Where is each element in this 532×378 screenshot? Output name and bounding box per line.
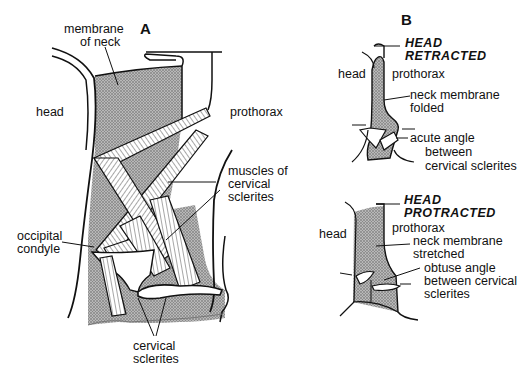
label-cervical-sclerites-a: cervical sclerites xyxy=(133,340,179,366)
label-neck-membrane-stretched: neck membrane stretched xyxy=(413,235,503,261)
label-membrane-of-neck: membrane of neck xyxy=(64,23,124,49)
label-muscles-of-cervical-sclerites: muscles of cervical sclerites xyxy=(228,165,288,204)
label-head-protracted: HEAD PROTRACTED xyxy=(404,194,496,220)
label-head-retracted: HEAD RETRACTED xyxy=(405,37,487,63)
label-occipital-condyle: occipital condyle xyxy=(17,230,62,256)
label-head-protracted-side: head xyxy=(319,228,347,241)
panel-a-letter: A xyxy=(140,20,151,37)
label-prothorax-a: prothorax xyxy=(230,106,283,119)
label-head-a: head xyxy=(36,106,64,119)
label-prothorax-retracted: prothorax xyxy=(392,68,445,81)
label-obtuse-angle: obtuse angle between cervical sclerites xyxy=(424,262,517,301)
panel-b-letter: B xyxy=(401,11,412,28)
label-head-retracted-side: head xyxy=(338,68,366,81)
label-acute-angle: acute angle between cervical sclerites xyxy=(410,131,517,173)
label-neck-membrane-folded: neck membrane folded xyxy=(410,89,500,115)
panel-a-drawing xyxy=(52,47,232,336)
